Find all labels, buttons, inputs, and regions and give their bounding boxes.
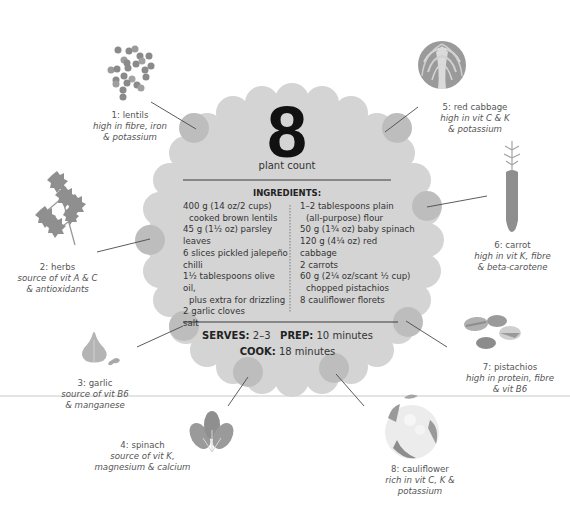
hub-herbs — [135, 225, 165, 255]
caption-pistachios: 7: pistachios high in protein, fibre & v… — [450, 362, 570, 395]
ingredient-line: 1–2 tablespoons plain — [300, 201, 415, 213]
caption-spinach: 4: spinach source of vit K, magnesium & … — [80, 440, 205, 473]
hub-cauliflower — [319, 353, 349, 383]
caption-cauliflower: 8: cauliflower rich in vit C, K & potass… — [360, 464, 480, 497]
hub-red-cabbage — [382, 113, 412, 143]
ingredient-line: 1½ tablespoons olive oil, — [183, 271, 288, 294]
parsley-icon — [35, 171, 86, 245]
lentils-icon — [108, 46, 155, 101]
hub-carrot — [412, 191, 442, 221]
garlic-icon — [82, 332, 120, 365]
caption-carrot: 6: carrot high in vit K, fibre & beta-ca… — [455, 240, 570, 273]
ingredient-line: 6 slices pickled jalepeño chilli — [183, 248, 288, 271]
cook-line: COOK: 18 minutes — [180, 346, 395, 357]
ingredients-right-column: 1–2 tablespoons plain (all-purpose) flou… — [300, 201, 415, 306]
prep-value: 10 minutes — [316, 330, 372, 341]
ingredient-line: (all-purpose) flour — [300, 213, 415, 225]
ingredient-line: 60 g (2¼ oz/scant ½ cup) — [300, 271, 415, 283]
ingredient-line: 120 g (4¼ oz) red cabbage — [300, 236, 415, 259]
ingredient-line: salt — [183, 318, 288, 330]
ingredient-line: chopped pistachios — [300, 283, 415, 295]
caption-red-cabbage: 5: red cabbage high in vit C & K & potas… — [420, 102, 530, 135]
ingredient-line: 45 g (1½ oz) parsley leaves — [183, 224, 288, 247]
ingredients-left-column: 400 g (14 oz/2 cups) cooked brown lentil… — [183, 201, 288, 330]
ingredient-line: 2 garlic cloves — [183, 306, 288, 318]
hub-spinach — [233, 357, 263, 387]
plant-count-label: plant count — [237, 160, 337, 171]
ingredient-line: 50 g (1¾ oz) baby spinach — [300, 224, 415, 236]
cook-value: 18 minutes — [279, 346, 335, 357]
ingredient-line: cooked brown lentils — [183, 213, 288, 225]
serves-value: 2–3 — [253, 330, 271, 341]
prep-label: PREP: — [280, 330, 313, 341]
red-cabbage-icon — [418, 41, 466, 89]
cook-label: COOK: — [240, 346, 276, 357]
pistachios-icon — [463, 315, 521, 349]
caption-herbs: 2: herbs source of vit A & C & antioxida… — [0, 262, 115, 295]
ingredient-line: 8 cauliflower florets — [300, 295, 415, 307]
cauliflower-icon — [385, 394, 439, 459]
plant-count-number: 8 — [237, 96, 337, 168]
caption-lentils: 1: lentils high in fibre, iron & potassi… — [70, 110, 190, 143]
ingredient-line: 400 g (14 oz/2 cups) — [183, 201, 288, 213]
serves-label: SERVES: — [202, 330, 250, 341]
ingredients-title: INGREDIENTS: — [237, 188, 337, 198]
serves-prep-line: SERVES: 2–3 PREP: 10 minutes — [180, 330, 395, 341]
caption-garlic: 3: garlic source of vit B6 & manganese — [40, 378, 150, 411]
ingredient-line: 2 carrots — [300, 260, 415, 272]
carrot-icon — [504, 141, 520, 232]
ingredient-line: plus extra for drizzling — [183, 295, 288, 307]
